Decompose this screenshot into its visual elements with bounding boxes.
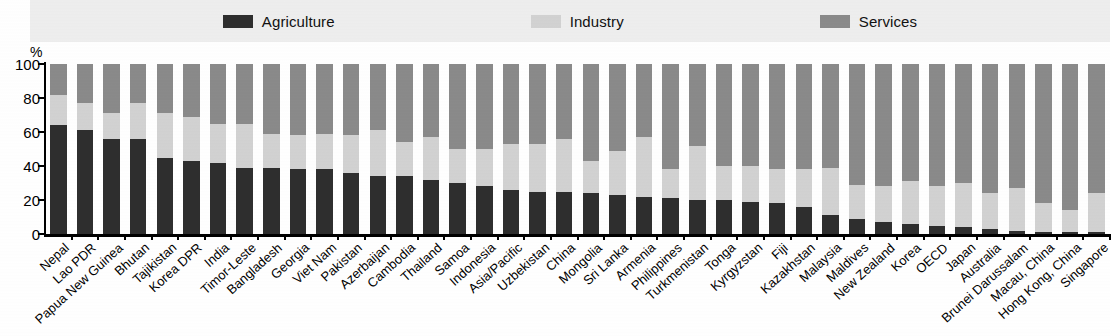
bar-column[interactable] <box>689 64 706 234</box>
bar-column[interactable] <box>1088 64 1105 234</box>
bar-segment-agriculture <box>77 130 94 234</box>
bar-segment-industry <box>290 135 307 169</box>
bar-column[interactable] <box>822 64 839 234</box>
bar-column[interactable] <box>1009 64 1026 234</box>
bar-segment-industry <box>130 103 147 139</box>
bar-segment-industry <box>236 124 253 168</box>
bar-column[interactable] <box>157 64 174 234</box>
bar-column[interactable] <box>849 64 866 234</box>
y-tick-mark <box>38 131 45 133</box>
bar-segment-services <box>130 64 147 103</box>
bar-column[interactable] <box>183 64 200 234</box>
bar-column[interactable] <box>583 64 600 234</box>
bar-segment-industry <box>1035 203 1052 232</box>
bar-column[interactable] <box>769 64 786 234</box>
bar-column[interactable] <box>449 64 466 234</box>
bar-segment-industry <box>796 169 813 206</box>
legend-label-industry: Industry <box>570 13 624 30</box>
bar-column[interactable] <box>503 64 520 234</box>
bar-segment-industry <box>423 137 440 180</box>
bar-column[interactable] <box>50 64 67 234</box>
bar-column[interactable] <box>103 64 120 234</box>
bar-column[interactable] <box>902 64 919 234</box>
bar-segment-agriculture <box>556 192 573 235</box>
bar-column[interactable] <box>742 64 759 234</box>
bar-segment-industry <box>77 103 94 130</box>
bar-segment-agriculture <box>396 176 413 234</box>
bar-segment-industry <box>849 185 866 219</box>
bar-column[interactable] <box>77 64 94 234</box>
bar-column[interactable] <box>875 64 892 234</box>
bar-column[interactable] <box>716 64 733 234</box>
bar-column[interactable] <box>423 64 440 234</box>
bar-segment-industry <box>875 186 892 222</box>
bar-segment-services <box>609 64 626 151</box>
bar-column[interactable] <box>556 64 573 234</box>
bar-segment-agriculture <box>716 200 733 234</box>
bar-segment-industry <box>370 130 387 176</box>
bar-segment-industry <box>609 151 626 195</box>
bar-column[interactable] <box>982 64 999 234</box>
y-tick-mark <box>38 199 45 201</box>
bar-segment-industry <box>157 113 174 157</box>
bar-segment-services <box>1088 64 1105 193</box>
bar-column[interactable] <box>1062 64 1079 234</box>
bar-segment-services <box>157 64 174 113</box>
bar-column[interactable] <box>796 64 813 234</box>
bar-segment-industry <box>343 135 360 172</box>
y-tick-mark <box>38 233 45 235</box>
bar-column[interactable] <box>662 64 679 234</box>
y-tick-label: 80 <box>2 91 40 106</box>
legend-item-agriculture: Agriculture <box>223 13 335 30</box>
bar-column[interactable] <box>263 64 280 234</box>
bar-segment-agriculture <box>130 139 147 234</box>
bar-column[interactable] <box>929 64 946 234</box>
bar-segment-services <box>689 64 706 146</box>
bar-segment-industry <box>396 142 413 176</box>
bar-column[interactable] <box>290 64 307 234</box>
bar-segment-services <box>503 64 520 144</box>
bar-segment-services <box>50 64 67 95</box>
bar-segment-services <box>343 64 360 135</box>
bar-column[interactable] <box>609 64 626 234</box>
bar-segment-industry <box>1088 193 1105 232</box>
bar-segment-agriculture <box>929 226 946 235</box>
y-tick-label: 40 <box>2 159 40 174</box>
legend-item-industry: Industry <box>531 13 624 30</box>
bar-segment-services <box>716 64 733 166</box>
bar-segment-industry <box>556 139 573 192</box>
bar-column[interactable] <box>343 64 360 234</box>
bar-segment-agriculture <box>955 227 972 234</box>
bar-column[interactable] <box>236 64 253 234</box>
bar-segment-agriculture <box>1035 232 1052 234</box>
bar-column[interactable] <box>636 64 653 234</box>
bar-segment-industry <box>769 169 786 203</box>
bar-segment-agriculture <box>1088 232 1105 234</box>
legend-label-services: Services <box>859 13 917 30</box>
bar-column[interactable] <box>316 64 333 234</box>
bar-segment-agriculture <box>822 215 839 234</box>
bar-column[interactable] <box>1035 64 1052 234</box>
bar-segment-agriculture <box>636 197 653 234</box>
bar-column[interactable] <box>955 64 972 234</box>
bar-segment-industry <box>183 117 200 161</box>
bar-segment-services <box>662 64 679 169</box>
bar-segment-agriculture <box>290 169 307 234</box>
bar-segment-agriculture <box>236 168 253 234</box>
bar-segment-services <box>955 64 972 183</box>
bar-column[interactable] <box>476 64 493 234</box>
bar-column[interactable] <box>130 64 147 234</box>
bar-segment-agriculture <box>183 161 200 234</box>
bar-column[interactable] <box>210 64 227 234</box>
bar-segment-agriculture <box>583 193 600 234</box>
bar-segment-services <box>556 64 573 139</box>
bar-segment-services <box>1009 64 1026 188</box>
bar-column[interactable] <box>529 64 546 234</box>
legend-label-agriculture: Agriculture <box>262 13 335 30</box>
bar-column[interactable] <box>370 64 387 234</box>
bar-column[interactable] <box>396 64 413 234</box>
bar-segment-industry <box>1009 188 1026 231</box>
bar-segment-agriculture <box>742 202 759 234</box>
bar-segment-services <box>423 64 440 137</box>
